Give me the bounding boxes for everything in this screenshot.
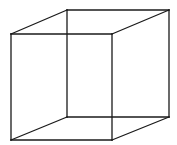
edge-front-top-left-to-back-top-left [11, 10, 67, 34]
necker-cube-diagram [0, 0, 177, 145]
edge-front-bottom-left-to-back-bottom-left [11, 117, 67, 140]
edge-front-top-right-to-back-top-right [112, 10, 169, 34]
edge-front-bottom-right-to-back-bottom-right [112, 117, 169, 140]
cube-wireframe [0, 0, 177, 145]
